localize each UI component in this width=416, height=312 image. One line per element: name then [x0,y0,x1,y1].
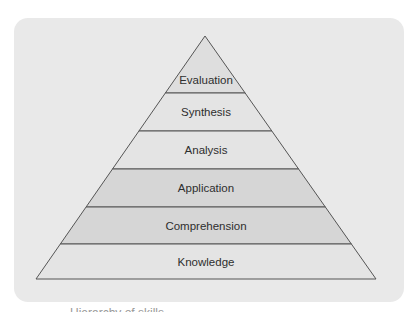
pyramid-diagram: EvaluationSynthesisAnalysisApplicationCo… [0,0,416,312]
layer-label: Knowledge [178,256,235,268]
layer-label: Evaluation [179,74,233,86]
layer-label: Synthesis [181,106,231,118]
layer-label: Application [178,182,234,194]
layer-label: Comprehension [165,220,246,232]
layer-label: Analysis [185,144,228,156]
figure-caption: Hierarchy of skills [70,306,164,312]
